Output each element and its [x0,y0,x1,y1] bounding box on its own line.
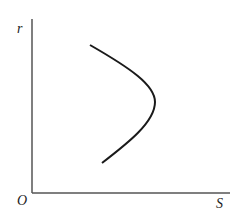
curve [90,45,155,163]
y-axis-label: r [17,21,23,36]
origin-label: O [17,193,27,208]
x-axis-label: S [216,196,223,211]
diagram-canvas: r O S [0,0,244,214]
